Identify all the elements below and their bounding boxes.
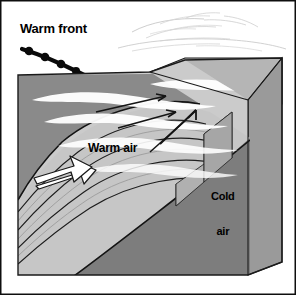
cold-air-label-line2: air — [211, 226, 235, 238]
warm-front-block-diagram — [0, 0, 296, 295]
diagram-canvas: Warm front Warm air Cold air — [0, 0, 296, 295]
warm-front-label: Warm front — [20, 22, 87, 36]
cold-air-label: Cold air — [211, 168, 235, 260]
cold-air-label-line1: Cold — [211, 191, 235, 203]
warm-air-label: Warm air — [88, 142, 137, 155]
